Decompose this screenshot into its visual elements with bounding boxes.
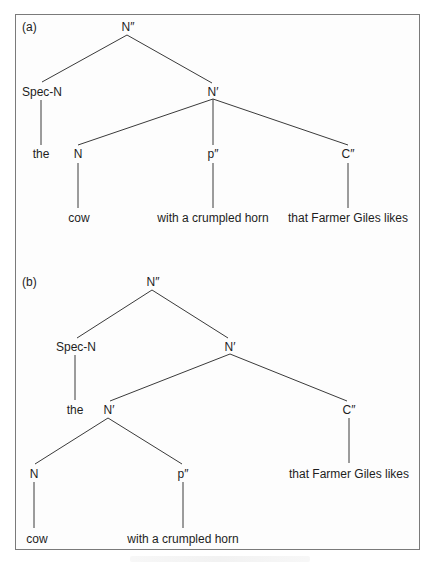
panel-label-b: (b) — [22, 275, 37, 289]
edge — [78, 99, 213, 145]
node-b-cp: C″ — [343, 403, 357, 417]
leaf-a-pp-text: with a crumpled horn — [156, 211, 268, 225]
edge — [230, 354, 347, 401]
edge — [213, 99, 348, 145]
node-b-n: N — [30, 467, 39, 481]
node-a-n: N — [74, 147, 83, 161]
edge — [110, 354, 230, 401]
tree-b: (b) N″ Spec-N N′ the N′ C″ N p″ that Far… — [22, 275, 409, 546]
node-b-nbar-upper: N′ — [225, 340, 237, 354]
node-a-pp: p″ — [208, 147, 220, 161]
edge — [42, 35, 127, 82]
edge — [152, 290, 228, 338]
node-b-det: the — [67, 403, 84, 417]
syntax-trees: (a) N″ Spec-N N′ the N p″ C″ cow with a … — [0, 0, 434, 567]
leaf-a-noun: cow — [68, 211, 90, 225]
leaf-b-noun: cow — [26, 532, 48, 546]
node-b-pp: p″ — [178, 467, 190, 481]
node-b-spec: Spec-N — [56, 340, 96, 354]
edge — [35, 418, 108, 464]
node-a-det: the — [33, 147, 50, 161]
caption-illegible — [130, 556, 310, 562]
node-a-root: N″ — [122, 20, 136, 34]
edge — [127, 35, 212, 83]
leaf-b-pp-text: with a crumpled horn — [126, 532, 238, 546]
node-a-cp: C″ — [342, 147, 356, 161]
leaf-b-cp-text: that Farmer Giles likes — [289, 467, 409, 481]
edge — [108, 418, 182, 464]
node-a-nbar: N′ — [208, 85, 220, 99]
edge — [77, 290, 152, 338]
tree-a: (a) N″ Spec-N N′ the N p″ C″ cow with a … — [22, 20, 408, 225]
panel-label-a: (a) — [22, 20, 37, 34]
node-b-root: N″ — [147, 275, 161, 289]
leaf-a-cp-text: that Farmer Giles likes — [288, 211, 408, 225]
node-b-nbar-lower: N′ — [104, 403, 116, 417]
node-a-spec: Spec-N — [22, 85, 62, 99]
